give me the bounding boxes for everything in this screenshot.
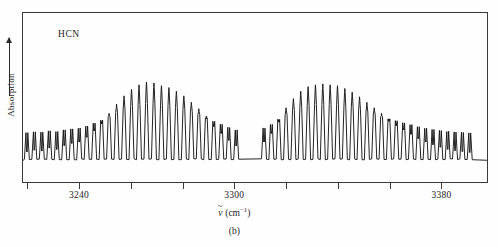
x-tick-3380 [441,183,442,189]
x-tick-3360 [390,183,391,189]
x-tick-3240 [79,183,80,189]
wavenumber-symbol: v [218,208,223,218]
x-tick-3300 [234,183,235,189]
molecule-label: HCN [58,29,80,39]
x-axis-title: v (cm−1) [218,206,250,218]
figure-caption: (b) [229,226,240,236]
units-close: ) [247,208,250,218]
x-tick-3320 [286,183,287,189]
x-tick-3220 [27,183,28,189]
x-tick-label-3300: 3300 [224,190,244,200]
x-tick-label-3240: 3240 [69,190,89,200]
x-axis-tick-labels: 324033003380 [0,190,498,204]
spectrum-trace [23,13,487,182]
figure-root: Absorption HCN 324033003380 v (cm−1) (b) [0,0,498,247]
x-tick-3340 [338,183,339,189]
units-open: (cm [223,208,240,218]
y-axis: Absorption [1,38,21,166]
x-tick-3280 [183,183,184,189]
x-tick-3260 [131,183,132,189]
absorption-trace-path [23,82,487,160]
plot-frame: HCN [22,12,488,183]
x-tick-label-3380: 3380 [431,190,451,200]
y-axis-label: Absorption [6,56,16,134]
